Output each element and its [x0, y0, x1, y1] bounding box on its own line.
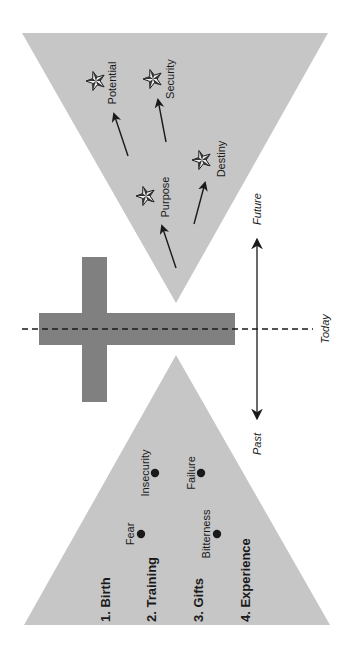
stage-training: 2. Training — [144, 557, 159, 622]
today-label: Today — [319, 313, 331, 344]
dot-fear — [137, 530, 145, 538]
stage-birth: 1. Birth — [98, 577, 113, 622]
label-fear: Fear — [124, 522, 136, 545]
label-failure: Failure — [185, 456, 197, 490]
hourglass-cross-diagram: Future Past Today — [0, 0, 355, 653]
past-label: Past — [251, 432, 263, 455]
label-purpose: Purpose — [159, 177, 171, 218]
label-bitterness: Bitterness — [200, 509, 212, 558]
past-triangle — [24, 355, 330, 625]
label-destiny: Destiny — [215, 140, 227, 177]
stage-gifts: 3. Gifts — [191, 578, 206, 622]
stage-experience: 4. Experience — [238, 538, 253, 622]
dot-insecurity — [151, 469, 159, 477]
future-label: Future — [251, 193, 263, 225]
dot-bitterness — [213, 530, 221, 538]
label-security: Security — [164, 59, 176, 99]
label-insecurity: Insecurity — [139, 449, 151, 497]
dot-failure — [197, 469, 205, 477]
label-potential: Potential — [106, 62, 118, 105]
